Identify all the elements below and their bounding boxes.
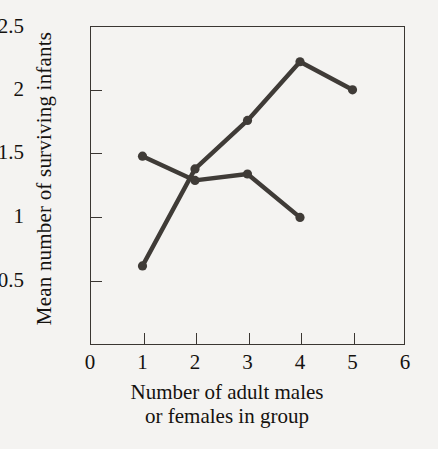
x-axis-title-line2: or females in group <box>62 405 392 429</box>
x-tick-label-0: 0 <box>70 350 110 375</box>
y-tick-label-2-5: 2.5 <box>0 14 24 39</box>
y-tick-label-1-5: 1.5 <box>0 140 24 165</box>
x-tick-1 <box>144 333 145 344</box>
y-tick-label-0-5: 0.5 <box>0 267 24 292</box>
x-axis-title-line1: Number of adult males <box>130 380 323 404</box>
x-tick-label-2: 2 <box>175 350 215 375</box>
plot-area <box>90 26 405 345</box>
y-tick-1-5 <box>91 153 102 154</box>
x-axis-title: Number of adult males or females in grou… <box>62 381 392 428</box>
x-tick-4 <box>301 333 302 344</box>
x-tick-label-6: 6 <box>385 350 425 375</box>
y-tick-0-5 <box>91 281 102 282</box>
y-axis-title: Mean number of surviving infants <box>32 9 57 349</box>
x-tick-5 <box>354 333 355 344</box>
y-tick-label-2: 2 <box>0 76 24 101</box>
x-tick-2 <box>196 333 197 344</box>
y-tick-1 <box>91 217 102 218</box>
x-tick-label-3: 3 <box>228 350 268 375</box>
x-tick-label-4: 4 <box>280 350 320 375</box>
line-chart-figure: Mean number of surviving infants 2.5 2 1… <box>0 0 438 449</box>
y-tick-label-1: 1 <box>0 204 24 229</box>
x-tick-label-1: 1 <box>123 350 163 375</box>
y-tick-2 <box>91 90 102 91</box>
x-tick-label-5: 5 <box>333 350 373 375</box>
x-tick-3 <box>249 333 250 344</box>
